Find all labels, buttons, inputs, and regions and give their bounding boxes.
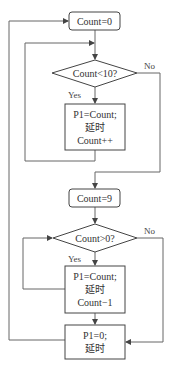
start-label: Count=0 — [77, 16, 112, 27]
proc1-line1: P1=Count; — [73, 109, 117, 120]
flowchart: Count=0 Count<10? P1=Count; 延时 Count++ C… — [0, 0, 170, 366]
cond2-yes-label: Yes — [68, 254, 82, 264]
cond1-no-label: No — [144, 61, 155, 71]
edge-proc2-loop — [23, 238, 65, 289]
proc1-line3: Count++ — [77, 135, 113, 146]
proc1-line2: 延时 — [85, 122, 105, 133]
edge-cond2-no — [126, 238, 163, 342]
cond1-yes-label: Yes — [68, 90, 82, 100]
proc3-line1: P1=0; — [83, 330, 107, 341]
proc2-line3: Count−1 — [77, 297, 112, 308]
cond1-label: Count<10? — [73, 68, 118, 79]
proc2-line2: 延时 — [85, 284, 105, 295]
cond2-no-label: No — [144, 226, 155, 236]
proc3-line2: 延时 — [85, 343, 105, 354]
set9-label: Count=9 — [77, 193, 112, 204]
cond2-label: Count>0? — [75, 233, 115, 244]
edge-outer-loop — [9, 21, 68, 340]
proc2-line1: P1=Count; — [73, 271, 117, 282]
